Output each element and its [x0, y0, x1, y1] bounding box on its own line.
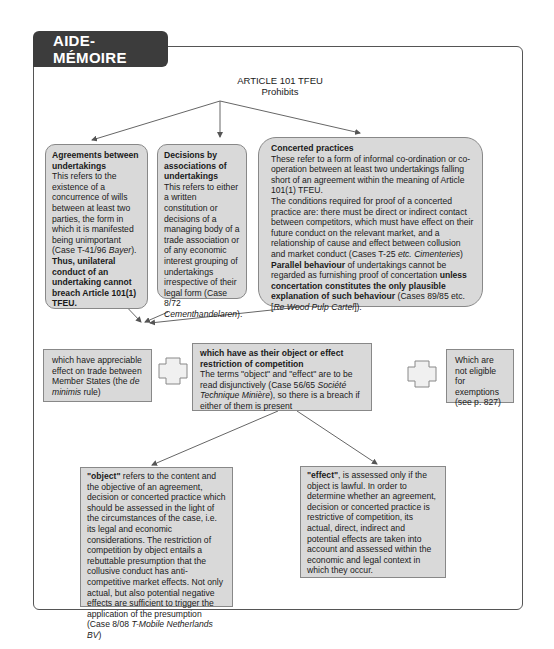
agreements-box: Agreements between undertakings This ref…	[45, 144, 148, 309]
decisions-text: This refers to either a written constitu…	[164, 182, 240, 309]
exemptions-box: Which are not eligible for exemptions (s…	[446, 349, 514, 403]
de-minimis-after: rule)	[81, 387, 101, 397]
decisions-title: Decisions by associations of undertaking…	[164, 150, 227, 181]
restriction-title: which have as their object or effect res…	[200, 348, 343, 369]
decisions-case: Cementhandelaren	[164, 309, 237, 319]
effect-text: , is assessed only if the object is lawf…	[307, 470, 436, 575]
parallel-behaviour-cite-after: ]).	[354, 302, 362, 312]
agreements-text-after: ).	[131, 245, 136, 255]
parallel-behaviour-label: Parallel behaviour	[271, 260, 345, 270]
agreements-title: Agreements between undertakings	[52, 150, 138, 171]
concerted-case: Cimenteries	[414, 249, 460, 259]
object-box: "object" refers to the content and the o…	[80, 467, 233, 607]
de-minimis-box: which have appreciable effect on trade b…	[43, 349, 152, 402]
concerted-etc: etc.	[398, 249, 412, 259]
wood-pulp-case: Re Wood Pulp Cartel	[273, 302, 354, 312]
concerted-practices-box: Concerted practices These refer to a for…	[258, 137, 483, 307]
agreements-case: Bayer	[109, 245, 131, 255]
object-after: )	[98, 630, 101, 640]
effect-term: "effect"	[307, 470, 338, 480]
plus-connector-icon	[407, 360, 437, 388]
decisions-text-after: ).	[237, 309, 242, 319]
concerted-definition: These refer to a form of informal co-ord…	[271, 154, 470, 196]
de-minimis-text: which have appreciable effect on trade b…	[52, 355, 142, 386]
agreements-conclusion: Thus, unilateral conduct of an undertaki…	[52, 256, 136, 308]
agreements-text: This refers to the existence of a concur…	[52, 171, 134, 255]
effect-box: "effect", is assessed only if the object…	[300, 466, 446, 578]
decisions-box: Decisions by associations of undertaking…	[157, 144, 247, 299]
object-text: refers to the content and the objective …	[87, 471, 226, 629]
concerted-conditions-after: )	[460, 249, 463, 259]
exemptions-text: Which are not eligible for exemptions (s…	[455, 355, 501, 407]
plus-connector-icon	[158, 357, 188, 385]
object-term: "object"	[87, 471, 120, 481]
concerted-title: Concerted practices	[271, 143, 354, 153]
restriction-box: which have as their object or effect res…	[192, 343, 372, 411]
